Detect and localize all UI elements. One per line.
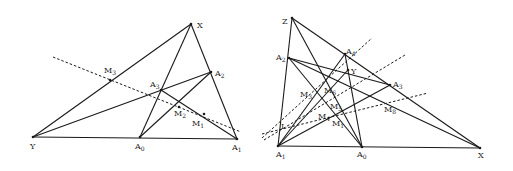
- point-z: [291, 17, 294, 20]
- label-i: I: [281, 122, 284, 131]
- point-a1: [277, 145, 280, 148]
- label-a2: A2: [275, 53, 286, 63]
- left-triangle-figure: XYA0A1A2A3M1M2M3: [29, 21, 242, 153]
- point-m2: [178, 106, 181, 109]
- geometry-diagram: XYA0A1A2A3M1M2M3 ZA1XA0A2A3A4YM1M3M4M5M6…: [0, 0, 513, 171]
- segment-z-x: [292, 18, 480, 148]
- segment-z-a0: [292, 18, 362, 147]
- label-a2: A2: [214, 69, 225, 79]
- point-a3: [160, 89, 163, 92]
- label-m4: M4: [318, 112, 330, 122]
- point-a1: [236, 138, 239, 141]
- label-a3: A3: [149, 80, 160, 90]
- label-m5: M5: [330, 102, 342, 112]
- point-a2: [288, 57, 291, 60]
- segment-y-a1: [33, 137, 237, 139]
- point-m1: [203, 113, 206, 116]
- dashed-line: [262, 93, 428, 134]
- label-y: Y: [29, 142, 36, 151]
- label-m8: M8: [384, 105, 396, 115]
- label-m2: M2: [174, 109, 186, 119]
- segment-a1-x: [278, 146, 480, 148]
- point-a3: [389, 84, 392, 87]
- label-a1: A1: [275, 150, 286, 160]
- label-a0: A0: [356, 150, 367, 160]
- point-a0: [139, 136, 142, 139]
- label-m1: M1: [332, 119, 344, 129]
- segment-a3-a1: [161, 90, 237, 139]
- label-m6: M6: [324, 86, 336, 96]
- label-a1: A1: [231, 143, 242, 153]
- point-y: [32, 136, 35, 139]
- right-triangle-figure: ZA1XA0A2A3A4YM1M3M4M5M6M8I: [262, 17, 484, 160]
- segment-x-a0: [140, 24, 191, 137]
- label-a3: A3: [392, 80, 403, 90]
- label-m3: M3: [104, 66, 116, 76]
- point-x: [479, 147, 482, 150]
- point-a2: [210, 71, 213, 74]
- point-x: [190, 23, 193, 26]
- label-m3: M3: [300, 90, 312, 100]
- label-a4: A4: [345, 47, 356, 57]
- point-m3: [109, 79, 112, 82]
- point-a0: [361, 146, 364, 149]
- label-x: X: [478, 151, 484, 160]
- segment-a1-a4: [278, 54, 345, 146]
- point-y: [347, 69, 350, 72]
- label-m1: M1: [192, 119, 204, 129]
- label-z: Z: [282, 17, 288, 26]
- label-a0: A0: [134, 142, 145, 152]
- label-x: X: [197, 21, 203, 30]
- label-y: Y: [350, 67, 357, 76]
